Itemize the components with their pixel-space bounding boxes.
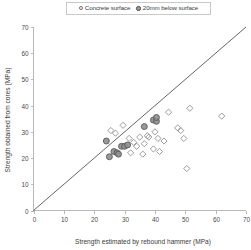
x-tick-label: 30 xyxy=(122,216,130,223)
x-tick-label: 50 xyxy=(182,216,190,223)
data-point xyxy=(219,113,225,119)
data-point xyxy=(161,138,167,144)
data-point xyxy=(106,154,112,160)
data-point xyxy=(150,146,156,152)
data-point xyxy=(137,134,143,140)
data-point xyxy=(140,151,146,157)
data-point xyxy=(128,150,134,156)
x-tick-label: 70 xyxy=(243,216,251,223)
x-axis-tick-labels: 010203040506070 xyxy=(33,216,251,223)
data-point xyxy=(152,129,158,135)
y-axis: 010203040506070 xyxy=(21,24,33,215)
x-tick-label: 60 xyxy=(213,216,221,223)
y-axis-title: Strength obtained from cores (MPa) xyxy=(4,68,12,173)
y-axis-tick-labels: 010203040506070 xyxy=(21,24,29,215)
data-point xyxy=(184,165,190,171)
y-tick-label: 10 xyxy=(21,181,29,188)
data-point xyxy=(103,138,109,144)
y-tick-label: 70 xyxy=(21,24,29,31)
data-point xyxy=(141,124,147,130)
data-point xyxy=(165,109,171,115)
x-axis-title: Strength estimated by rebound hammer (MP… xyxy=(75,238,211,246)
data-point xyxy=(141,141,147,147)
y-tick-label: 0 xyxy=(25,208,29,215)
y-tick-label: 60 xyxy=(21,50,29,57)
x-tick-label: 20 xyxy=(91,216,99,223)
data-point xyxy=(116,151,122,157)
line-of-equality xyxy=(34,27,247,211)
data-point xyxy=(155,135,161,141)
data-point xyxy=(156,148,162,154)
data-point xyxy=(181,135,187,141)
data-point xyxy=(126,135,132,141)
scatter-chart: Concrete surface 20mm below surface 0102… xyxy=(0,0,251,250)
data-point xyxy=(120,122,126,128)
x-tick-label: 40 xyxy=(152,216,160,223)
data-point xyxy=(187,105,193,111)
x-tick-label: 10 xyxy=(61,216,69,223)
x-tick-label: 0 xyxy=(33,216,37,223)
series-concrete-surface xyxy=(108,105,225,171)
y-tick-label: 20 xyxy=(21,155,29,162)
y-tick-label: 40 xyxy=(21,103,29,110)
x-axis: 010203040506070 xyxy=(33,211,251,223)
y-tick-label: 50 xyxy=(21,76,29,83)
y-tick-label: 30 xyxy=(21,129,29,136)
data-point xyxy=(125,142,131,148)
data-point xyxy=(153,114,159,120)
plot-area: 010203040506070 010203040506070 Strength… xyxy=(0,0,251,250)
